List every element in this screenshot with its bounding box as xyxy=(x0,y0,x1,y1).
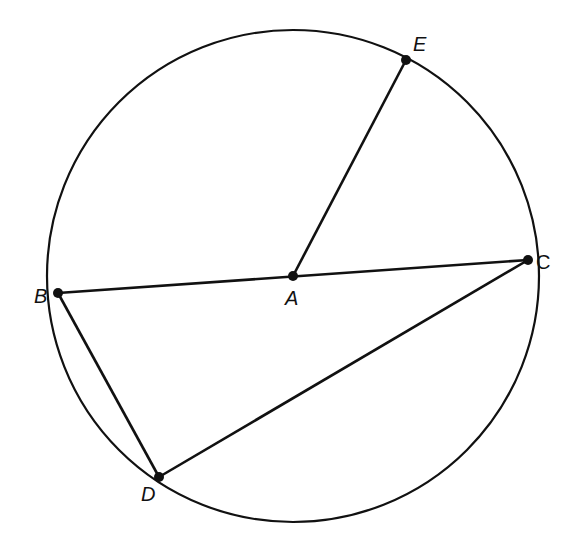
point-d xyxy=(154,472,164,482)
label-d: D xyxy=(141,484,155,504)
diagram-svg xyxy=(0,0,584,545)
point-e xyxy=(401,55,411,65)
point-c xyxy=(523,255,533,265)
label-c: C xyxy=(536,252,550,272)
segment-ae-radius xyxy=(293,60,406,276)
label-b: B xyxy=(34,286,47,306)
label-e: E xyxy=(413,34,426,54)
point-b xyxy=(53,288,63,298)
label-a: A xyxy=(285,288,298,308)
point-a xyxy=(288,271,298,281)
geometry-diagram: A B C D E xyxy=(0,0,584,545)
